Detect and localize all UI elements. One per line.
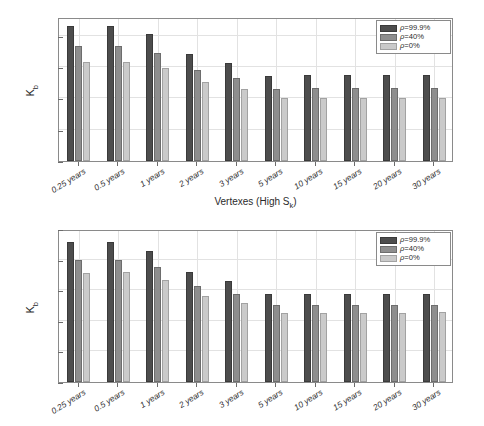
- x-axis-tick: [315, 162, 316, 166]
- legend-swatch-icon: [380, 34, 397, 41]
- y-axis-title: Kb: [24, 61, 39, 121]
- legend-item-series1[interactable]: ρ=40%: [380, 245, 447, 253]
- legend-label-value: =40%: [404, 244, 424, 253]
- bar-bottom-series0-group0: [67, 242, 74, 382]
- bar-top-series2-group4: [241, 89, 248, 161]
- y-axis-title-base: K: [24, 306, 36, 313]
- x-axis-tick: [157, 162, 158, 166]
- bar-top-series2-group3: [202, 82, 209, 161]
- bar-bottom-series1-group2: [154, 267, 161, 382]
- y-axis-title: Kb: [24, 277, 39, 337]
- bar-bottom-series1-group5: [273, 305, 280, 382]
- y-axis-tick: [58, 162, 63, 163]
- legend-item-series2[interactable]: ρ=0%: [380, 254, 447, 262]
- bar-top-series0-group2: [146, 34, 153, 161]
- y-axis-tick: [58, 291, 63, 292]
- bar-bottom-series1-group9: [431, 305, 438, 382]
- x-axis-tick: [433, 162, 434, 166]
- legend-item-series0[interactable]: ρ=99.9%: [380, 236, 447, 244]
- legend-label-value: =0%: [404, 253, 419, 262]
- x-axis-tick: [433, 383, 434, 387]
- y-axis-tick: [58, 352, 63, 353]
- legend-swatch-icon: [380, 246, 397, 253]
- bar-top-series1-group5: [273, 89, 280, 162]
- x-axis-tick: [236, 383, 237, 387]
- chart-top: 00.050.10.150.2Kb0.25 years0.5 years1 ye…: [0, 0, 484, 213]
- y-axis-tick: [58, 230, 63, 231]
- x-axis-tick: [117, 162, 118, 166]
- x-axis-tick: [157, 383, 158, 387]
- legend-label: ρ=40%: [400, 33, 424, 41]
- legend-label: ρ=99.9%: [400, 236, 430, 244]
- bar-top-series1-group6: [312, 88, 319, 161]
- legend-label: ρ=40%: [400, 245, 424, 253]
- y-axis-tick: [58, 99, 63, 100]
- bar-top-series0-group3: [186, 54, 193, 161]
- x-axis-title-base: Vertexes (High S: [214, 196, 289, 207]
- bar-bottom-series2-group4: [241, 303, 248, 382]
- bar-bottom-series0-group1: [107, 242, 114, 382]
- bar-bottom-series0-group3: [186, 272, 193, 382]
- y-axis-tick: [58, 37, 63, 38]
- bar-top-series2-group0: [83, 62, 90, 161]
- bar-bottom-series0-group4: [225, 281, 232, 382]
- x-axis-tick: [275, 383, 276, 387]
- bar-bottom-series1-group0: [75, 260, 82, 382]
- bar-top-series2-group2: [162, 68, 169, 161]
- legend-label: ρ=0%: [400, 42, 420, 50]
- bar-bottom-series1-group7: [352, 305, 359, 382]
- bar-top-series2-group8: [399, 98, 406, 161]
- bar-top-series1-group1: [115, 46, 122, 161]
- legend-label-value: =99.9%: [404, 23, 430, 32]
- x-axis-tick: [196, 383, 197, 387]
- legend-label-value: =0%: [404, 41, 419, 50]
- x-axis-tick: [394, 162, 395, 166]
- x-axis-tick: [315, 383, 316, 387]
- bar-bottom-series2-group0: [83, 273, 90, 382]
- bar-top-series0-group1: [107, 26, 114, 161]
- x-axis-tick: [117, 383, 118, 387]
- legend-item-series1[interactable]: ρ=40%: [380, 33, 447, 41]
- bar-bottom-series2-group2: [162, 280, 169, 383]
- bar-top-series0-group7: [344, 75, 351, 161]
- bar-top-series0-group6: [304, 75, 311, 161]
- y-axis-tick: [58, 68, 63, 69]
- y-axis-tick: [58, 383, 63, 384]
- legend-item-series0[interactable]: ρ=99.9%: [380, 24, 447, 32]
- bar-top-series1-group0: [75, 46, 82, 161]
- bar-top-series2-group5: [281, 98, 288, 161]
- bar-top-series1-group8: [391, 88, 398, 161]
- y-axis-title-base: K: [24, 89, 36, 96]
- bar-top-series1-group3: [194, 70, 201, 161]
- bar-bottom-series0-group6: [304, 294, 311, 382]
- x-axis-title-tail: ): [293, 196, 296, 207]
- bar-top-series0-group8: [383, 75, 390, 161]
- bar-bottom-series2-group5: [281, 313, 288, 382]
- legend-label: ρ=99.9%: [400, 24, 430, 32]
- bar-top-series0-group4: [225, 63, 232, 161]
- legend: ρ=99.9%ρ=40%ρ=0%: [376, 20, 451, 54]
- bar-top-series0-group0: [67, 26, 74, 161]
- bar-bottom-series1-group6: [312, 305, 319, 382]
- bar-bottom-series1-group8: [391, 305, 398, 382]
- bar-bottom-series1-group1: [115, 260, 122, 382]
- legend-label: ρ=0%: [400, 254, 420, 262]
- chart-bottom: 00.020.040.060.080.1Kb0.25 years0.5 year…: [0, 213, 484, 426]
- bar-top-series1-group2: [154, 53, 161, 161]
- bar-bottom-series2-group1: [123, 272, 130, 382]
- y-axis-tick: [58, 261, 63, 262]
- x-axis-tick: [275, 162, 276, 166]
- bar-bottom-series1-group3: [194, 286, 201, 382]
- legend-swatch-icon: [380, 25, 397, 32]
- bar-top-series1-group7: [352, 88, 359, 161]
- legend-item-series2[interactable]: ρ=0%: [380, 42, 447, 50]
- x-axis-tick: [354, 383, 355, 387]
- legend-swatch-icon: [380, 43, 397, 50]
- bar-top-series0-group5: [265, 76, 272, 161]
- y-axis-title-subscript: b: [31, 85, 40, 89]
- y-axis-tick: [58, 322, 63, 323]
- y-axis-title-subscript: b: [31, 301, 40, 305]
- legend-label-value: =40%: [404, 32, 424, 41]
- x-axis-tick: [354, 162, 355, 166]
- bar-bottom-series1-group4: [233, 294, 240, 382]
